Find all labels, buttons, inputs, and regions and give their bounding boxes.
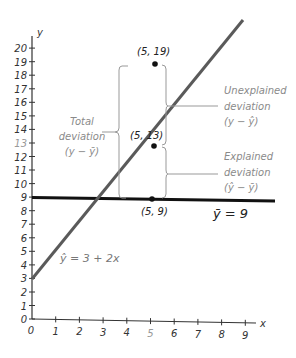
y-tick-17: 17	[14, 84, 27, 95]
x-tick-1: 1	[53, 326, 59, 337]
total-deviation-bracket	[115, 66, 128, 198]
svg-text:deviation: deviation	[59, 131, 105, 142]
x-tick-2: 2	[76, 326, 82, 337]
svg-text:deviation: deviation	[224, 167, 270, 178]
point-5-19	[152, 61, 158, 67]
y-tick-7: 7	[21, 219, 28, 230]
y-tick-13: 13	[14, 138, 27, 149]
svg-text:(y − ȳ): (y − ȳ)	[65, 146, 99, 157]
y-tick-11: 11	[14, 165, 27, 176]
y-tick-12: 12	[14, 152, 27, 163]
mean-line-equation: ȳ = 9	[212, 206, 248, 221]
x-axis-ticks	[56, 316, 246, 325]
x-axis-label: x	[259, 318, 266, 329]
x-tick-9: 9	[242, 330, 248, 341]
svg-text:Explained: Explained	[224, 151, 274, 162]
point-5-9	[149, 196, 155, 202]
total-deviation-annotation: Total deviation (y − ȳ)	[59, 116, 105, 157]
x-tick-8: 8	[218, 329, 224, 340]
y-tick-14: 14	[14, 124, 27, 135]
y-tick-3: 3	[21, 273, 27, 284]
svg-text:Unexplained: Unexplained	[224, 85, 287, 96]
y-tick-0: 0	[21, 314, 27, 325]
y-tick-18: 18	[14, 70, 27, 81]
explained-deviation-bracket	[162, 147, 168, 198]
y-tick-10: 10	[14, 179, 27, 190]
svg-text:deviation: deviation	[224, 101, 270, 112]
point-label-5-13: (5, 13)	[130, 130, 163, 141]
y-tick-19: 19	[14, 57, 27, 68]
y-axis-label: y	[36, 27, 44, 38]
x-axis	[32, 319, 256, 323]
x-tick-4: 4	[124, 327, 130, 338]
y-tick-2: 2	[21, 287, 27, 298]
unexplained-deviation-annotation: Unexplained deviation (y − ŷ)	[224, 85, 287, 127]
point-label-5-9: (5, 9)	[141, 206, 168, 217]
x-tick-7: 7	[195, 329, 202, 340]
regression-line-equation: ŷ = 3 + 2x	[59, 252, 120, 265]
y-tick-6: 6	[21, 233, 27, 244]
svg-text:Total: Total	[70, 116, 94, 127]
x-tick-3: 3	[100, 327, 106, 338]
regression-line	[32, 20, 243, 279]
y-tick-4: 4	[21, 260, 27, 271]
x-axis-tick-labels: 0 1 2 3 4 5 6 7 8 9	[28, 325, 249, 341]
y-tick-1: 1	[21, 301, 27, 312]
svg-text:(y − ŷ): (y − ŷ)	[224, 116, 258, 127]
x-tick-5: 5	[147, 328, 153, 339]
svg-text:(ŷ − ȳ): (ŷ − ȳ)	[224, 182, 258, 193]
y-tick-15: 15	[14, 111, 27, 122]
explained-deviation-annotation: Explained deviation (ŷ − ȳ)	[224, 151, 274, 193]
point-5-13	[151, 143, 157, 149]
y-tick-9: 9	[21, 192, 27, 203]
y-tick-16: 16	[14, 97, 27, 108]
y-tick-8: 8	[21, 206, 27, 217]
regression-deviation-diagram: 0 1 2 3 4 5 6 7 8 9 10 11 12 13 14 15 16…	[0, 0, 296, 358]
y-tick-5: 5	[21, 246, 27, 257]
x-tick-6: 6	[171, 328, 177, 339]
x-tick-0: 0	[28, 325, 34, 336]
y-tick-20: 20	[14, 43, 27, 54]
y-axis-tick-labels: 0 1 2 3 4 5 6 7 8 9 10 11 12 13 14 15 16…	[14, 43, 27, 325]
point-label-5-19: (5, 19)	[137, 46, 170, 57]
